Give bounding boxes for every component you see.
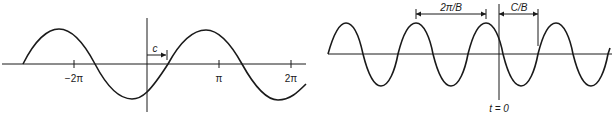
label-t-zero: t = 0 [489, 103, 509, 114]
label-2pi: 2π [285, 73, 298, 84]
arrowhead-right-icon [481, 12, 486, 17]
arrowhead-shift-right-icon [533, 12, 538, 17]
label-minus-2pi: −2π [65, 73, 83, 84]
arrowhead-icon [161, 53, 166, 58]
label-shift: C/B [511, 2, 528, 13]
arrowhead-shift-left-icon [499, 12, 504, 17]
label-c: c [153, 43, 158, 54]
right-panel-sine-wave: t = 0 2π/B C/B [328, 2, 612, 114]
figure: −2π π 2π c t = 0 2π/B C/B [0, 0, 612, 120]
arrowhead-left-icon [416, 12, 421, 17]
label-pi: π [216, 73, 223, 84]
label-period: 2π/B [439, 2, 462, 13]
left-panel-shifted-sine: −2π π 2π c [2, 18, 306, 112]
